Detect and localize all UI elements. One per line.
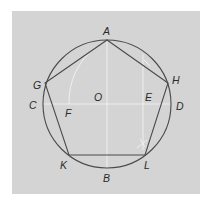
- background-panel: [12, 11, 200, 194]
- label-B: B: [103, 172, 110, 184]
- label-L: L: [144, 159, 150, 171]
- label-A: A: [102, 25, 110, 37]
- label-H: H: [172, 74, 180, 86]
- pentagon-construction-figure: A B C D E F G H K L O: [0, 0, 210, 203]
- label-F: F: [65, 107, 72, 119]
- label-O-center: O: [94, 91, 102, 103]
- label-E: E: [145, 91, 153, 103]
- label-G: G: [33, 79, 41, 91]
- diagram-canvas: A B C D E F G H K L O: [0, 0, 210, 203]
- label-K: K: [60, 159, 68, 171]
- label-C: C: [29, 99, 37, 111]
- label-D: D: [176, 100, 184, 112]
